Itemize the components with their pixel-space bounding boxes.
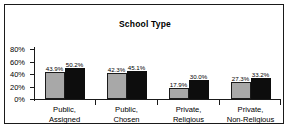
category-label-2: Private, Religious — [173, 105, 204, 124]
bar-group-2-bars: 17.9% 30.0% — [158, 49, 219, 99]
category-label-3-line-2: Non-Religious — [227, 115, 275, 125]
bar-2-black-label: 30.0% — [190, 73, 208, 80]
bar-1-black[interactable]: 45.1% — [127, 71, 147, 99]
category-label-0: Public, Assigned — [49, 105, 80, 124]
bar-group-0: 43.9% 50.2% Public, Assigned — [34, 49, 95, 99]
category-label-3-line-1: Private, — [227, 105, 275, 115]
bar-group-1-bars: 42.3% 45.1% — [96, 49, 157, 99]
bar-group-3-bars: 27.3% 33.2% — [220, 49, 281, 99]
y-tick-label-0: 0% — [14, 95, 25, 104]
category-label-0-line-2: Assigned — [49, 115, 80, 125]
bar-group-2: 17.9% 30.0% Private, Religious — [158, 49, 219, 99]
category-label-1-line-2: Chosen — [113, 115, 139, 125]
group-separator-tick-4 — [280, 100, 281, 105]
bar-0-gray-label: 43.9% — [46, 65, 64, 72]
bar-group-1: 42.3% 45.1% Public, Chosen — [96, 49, 157, 99]
plot-area: 80% 60% 40% 20% 0% 43.9% — [34, 49, 281, 99]
y-tick-label-40: 40% — [10, 70, 25, 79]
bar-2-gray[interactable]: 17.9% — [169, 88, 189, 99]
y-tick-label-20: 20% — [10, 82, 25, 91]
bar-3-gray-label: 27.3% — [232, 75, 250, 82]
y-tick-0: 0% — [30, 99, 34, 100]
bar-3-black[interactable]: 33.2% — [251, 78, 271, 99]
group-separator-tick-2 — [157, 100, 158, 105]
category-label-1: Public, Chosen — [113, 105, 139, 124]
bar-2-black[interactable]: 30.0% — [189, 80, 209, 99]
group-separator-tick-3 — [219, 100, 220, 105]
group-separator-tick-1 — [95, 100, 96, 105]
bar-group-0-bars: 43.9% 50.2% — [34, 49, 95, 99]
category-label-2-line-1: Private, — [173, 105, 204, 115]
bar-1-gray-label: 42.3% — [108, 66, 126, 73]
bar-3-black-label: 33.2% — [252, 71, 270, 78]
bar-1-black-label: 45.1% — [128, 64, 146, 71]
bar-1-gray[interactable]: 42.3% — [107, 73, 127, 99]
category-label-3: Private, Non-Religious — [227, 105, 275, 124]
chart-title: School Type — [5, 19, 285, 29]
category-label-0-line-1: Public, — [49, 105, 80, 115]
y-tick-label-60: 60% — [10, 57, 25, 66]
bar-3-gray[interactable]: 27.3% — [231, 82, 251, 99]
bar-0-black[interactable]: 50.2% — [65, 68, 85, 99]
chart-frame: School Type 80% 60% 40% 20% 0% — [4, 4, 284, 124]
bar-group-3: 27.3% 33.2% Private, Non-Religious — [220, 49, 281, 99]
bar-0-black-label: 50.2% — [66, 61, 84, 68]
bar-0-gray[interactable]: 43.9% — [45, 72, 65, 99]
category-label-1-line-1: Public, — [113, 105, 139, 115]
bar-2-gray-label: 17.9% — [170, 81, 188, 88]
y-tick-label-80: 80% — [10, 45, 25, 54]
category-label-2-line-2: Religious — [173, 115, 204, 125]
